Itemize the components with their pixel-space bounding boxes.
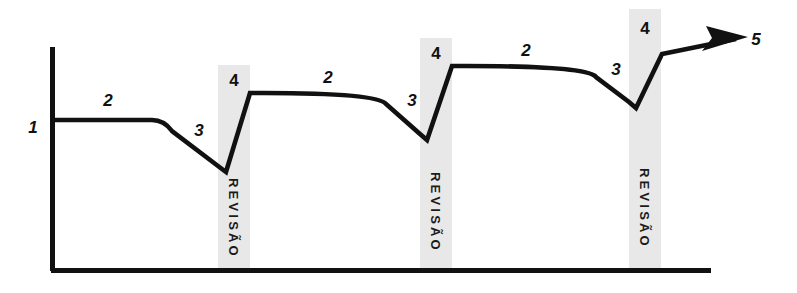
revision-band-2-caption: REVISÃO xyxy=(428,172,443,253)
performance-revision-diagram: 1 2 3 2 3 2 3 5 4 4 4 REVISÃO REVISÃO RE… xyxy=(0,0,797,293)
stage-label-2-first: 2 xyxy=(102,91,113,110)
stage-label-5: 5 xyxy=(751,30,761,49)
revision-band-1-number: 4 xyxy=(229,71,239,90)
stage-label-3-first: 3 xyxy=(194,121,204,140)
revision-band-3-number: 4 xyxy=(640,19,650,38)
arrow-head-icon xyxy=(702,26,748,51)
revision-band-3-caption: REVISÃO xyxy=(637,168,652,249)
revision-band-1-caption: REVISÃO xyxy=(226,178,241,259)
revision-band-2-number: 4 xyxy=(431,44,441,63)
stage-label-1: 1 xyxy=(28,118,37,137)
revision-band-captions-group: REVISÃO REVISÃO REVISÃO xyxy=(226,168,652,259)
stage-label-2-second: 2 xyxy=(322,68,333,87)
stage-label-3-second: 3 xyxy=(407,91,417,110)
stage-label-2-third: 2 xyxy=(520,41,531,60)
diagram-canvas: 1 2 3 2 3 2 3 5 4 4 4 REVISÃO REVISÃO RE… xyxy=(0,0,797,293)
stage-label-3-third: 3 xyxy=(611,60,621,79)
axes-group xyxy=(51,47,711,271)
